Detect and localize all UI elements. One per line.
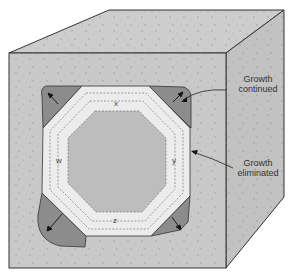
cube-right-face (226, 10, 284, 268)
crystal-core-octagon (68, 111, 166, 212)
face-label-z: z (113, 216, 117, 225)
annotation-line: continued (230, 84, 286, 94)
face-label-x: x (114, 99, 118, 108)
annotation-line: eliminated (230, 168, 286, 178)
annotation-line: Growth (230, 74, 286, 84)
face-label-y: y (172, 156, 176, 165)
annotation-growth-continued: Growth continued (230, 74, 286, 94)
annotation-line: Growth (230, 158, 286, 168)
annotation-growth-eliminated: Growth eliminated (230, 158, 286, 178)
face-label-w: w (56, 156, 62, 165)
diagram-canvas (0, 0, 293, 278)
